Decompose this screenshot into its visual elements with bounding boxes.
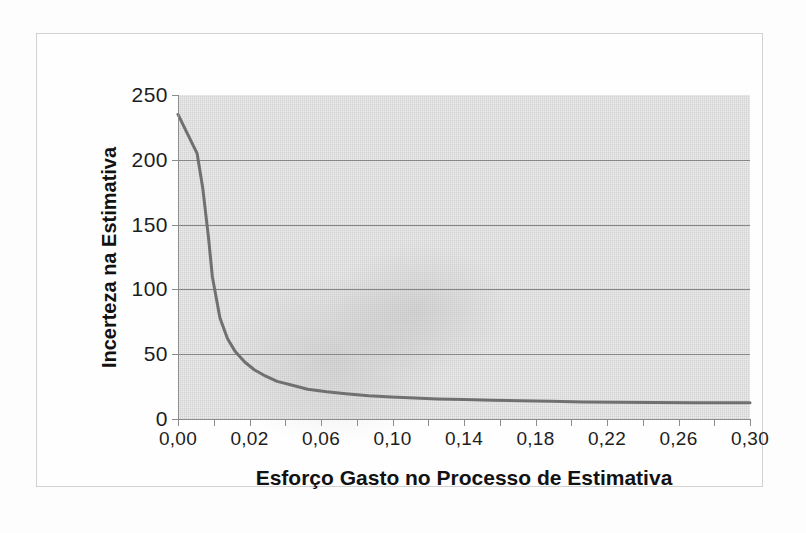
y-axis-tick-label: 100	[131, 277, 168, 301]
x-axis-minor-tick-mark	[500, 420, 501, 426]
x-axis-tick-label: 0,18	[516, 428, 554, 450]
x-axis-minor-tick-mark	[285, 420, 286, 426]
x-axis-tick-mark	[536, 420, 537, 426]
figure-frame: Incerteza na Estimativa 050100150200250 …	[36, 33, 763, 487]
x-axis-tick-label: 0,00	[159, 428, 197, 450]
plot-area	[178, 95, 750, 419]
x-axis-tick-mark	[750, 420, 751, 426]
x-axis-tick-mark	[393, 420, 394, 426]
x-axis-tick-label: 0,06	[302, 428, 340, 450]
x-axis-tick-label: 0,14	[445, 428, 483, 450]
x-axis-minor-tick-mark	[714, 420, 715, 426]
x-axis-tick-label: 0,30	[731, 428, 769, 450]
x-axis-minor-tick-mark	[214, 420, 215, 426]
x-axis-minor-tick-mark	[643, 420, 644, 426]
x-axis-tick-mark	[250, 420, 251, 426]
x-axis-tick-label: 0,02	[230, 428, 268, 450]
x-axis-tick-mark	[679, 420, 680, 426]
x-axis-tick-mark	[321, 420, 322, 426]
x-axis-tick-mark	[464, 420, 465, 426]
x-axis-tick-label: 0,26	[659, 428, 697, 450]
x-axis-minor-tick-mark	[571, 420, 572, 426]
scanned-page: Incerteza na Estimativa 050100150200250 …	[0, 0, 806, 533]
y-axis-line	[178, 95, 179, 420]
x-axis-tick-mark	[178, 420, 179, 426]
x-axis-tick-mark	[607, 420, 608, 426]
y-axis-tick-label: 200	[131, 148, 168, 172]
x-axis-tick-label: 0,22	[588, 428, 626, 450]
x-axis-minor-tick-mark	[428, 420, 429, 426]
x-axis-title: Esforço Gasto no Processo de Estimativa	[178, 466, 750, 490]
y-axis-tick-labels: 050100150200250	[37, 95, 178, 419]
y-axis-tick-label: 250	[131, 83, 168, 107]
x-axis-tick-marks	[178, 420, 751, 428]
y-axis-tick-label: 50	[144, 342, 168, 366]
y-axis-tick-label: 150	[131, 213, 168, 237]
x-axis-tick-label: 0,10	[373, 428, 411, 450]
x-axis-minor-tick-mark	[357, 420, 358, 426]
x-axis-tick-labels: 0,000,020,060,100,140,180,220,260,30	[178, 428, 751, 456]
data-series-line	[178, 95, 750, 419]
